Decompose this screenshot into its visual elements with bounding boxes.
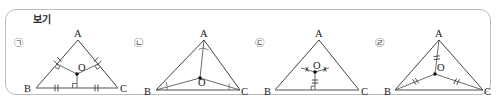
figure-1-vertex-a: A (74, 28, 82, 39)
figure-3-vertex-a: A (315, 28, 323, 39)
figure-2-vertex-a: A (200, 28, 208, 39)
figure-3-center-label: O (313, 60, 321, 71)
boki-box: 보기 ㉠ (5, 9, 491, 95)
figure-1-vertex-c: C (120, 83, 127, 94)
figure-2-center-label: O (198, 77, 206, 88)
figure-1-vertex-b: B (24, 83, 31, 94)
boki-diagram-root: 보기 ㉠ (0, 0, 498, 103)
figure-2: ㉡ O A (128, 26, 248, 102)
figure-1-drawing: O A B C (22, 26, 128, 102)
figure-3-drawing: O A B C (263, 26, 369, 102)
figure-4-vertex-c: C (484, 86, 491, 97)
figure-2-drawing: O A B C (142, 26, 248, 102)
figure-4-center-label: O (437, 62, 445, 73)
figure-4: ㉣ O A (369, 26, 489, 102)
figure-4-vertex-a: A (435, 28, 443, 39)
figure-1: ㉠ (8, 26, 128, 102)
figure-3: ㉢ O (249, 26, 369, 102)
figure-2-vertex-b: B (144, 86, 151, 97)
boki-legend-label: 보기 (33, 11, 52, 26)
figure-4-vertex-b: B (384, 86, 391, 97)
figure-4-drawing: O A B C (383, 26, 493, 102)
boki-legend: 보기 (28, 10, 57, 26)
figure-1-center-label: O (78, 62, 86, 73)
figure-3-vertex-b: B (264, 86, 271, 97)
figure-2-vertex-c: C (241, 86, 248, 97)
figure-3-vertex-c: C (361, 86, 368, 97)
